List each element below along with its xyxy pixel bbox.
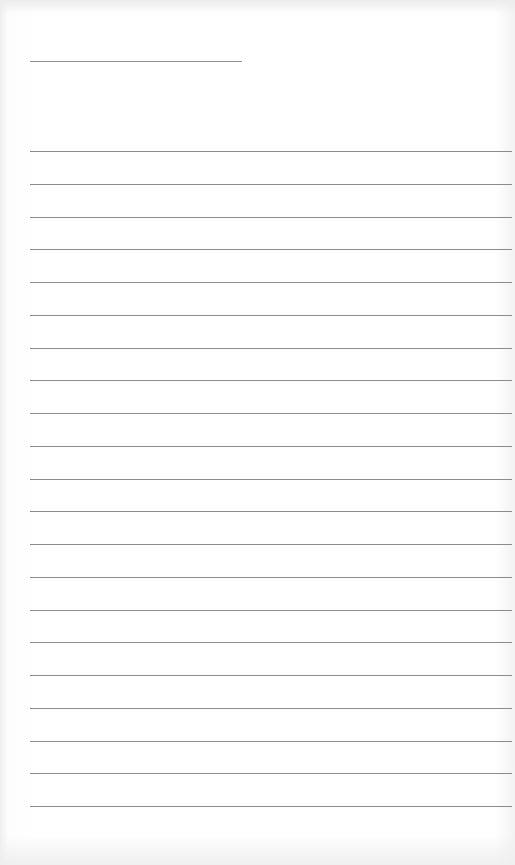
ruled-line-21[interactable] <box>30 806 512 807</box>
ruled-line-18[interactable] <box>30 708 512 709</box>
ruled-line-9[interactable] <box>30 413 512 414</box>
ruled-line-14[interactable] <box>30 577 512 578</box>
ruled-line-13[interactable] <box>30 544 512 545</box>
ruled-line-16[interactable] <box>30 642 512 643</box>
ruled-line-20[interactable] <box>30 773 512 774</box>
ruled-line-3[interactable] <box>30 217 512 218</box>
ruled-line-11[interactable] <box>30 479 512 480</box>
paper-bottom-edge-shadow <box>0 835 515 865</box>
ruled-line-15[interactable] <box>30 610 512 611</box>
ruled-line-5[interactable] <box>30 282 512 283</box>
ruled-line-1[interactable] <box>30 151 512 152</box>
ruled-line-7[interactable] <box>30 348 512 349</box>
ruled-line-19[interactable] <box>30 741 512 742</box>
ruled-line-8[interactable] <box>30 380 512 381</box>
paper-top-edge-shadow <box>0 0 515 14</box>
ruled-line-17[interactable] <box>30 675 512 676</box>
ruled-line-6[interactable] <box>30 315 512 316</box>
lined-paper-page <box>0 0 515 865</box>
ruled-line-10[interactable] <box>30 446 512 447</box>
ruled-line-12[interactable] <box>30 511 512 512</box>
ruled-line-4[interactable] <box>30 249 512 250</box>
header-write-line[interactable] <box>30 61 242 62</box>
ruled-line-2[interactable] <box>30 184 512 185</box>
